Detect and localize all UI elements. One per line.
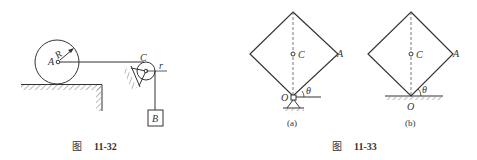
label-c-a: C: [298, 49, 305, 60]
label-a-b: A: [452, 48, 460, 59]
label-a-a: A: [336, 48, 344, 59]
caption-prefix-11-33: 图: [332, 141, 342, 152]
label-c: C: [140, 52, 147, 63]
label-r-small: r: [159, 60, 163, 71]
figure-11-33b: C A θ O (b): [368, 12, 460, 128]
label-theta-a: θ: [306, 85, 311, 96]
figure-11-32: R A C r B 图 11-32: [21, 40, 167, 152]
figure-11-33a: C A θ O (a): [250, 12, 344, 128]
ground-ledge: [21, 85, 102, 112]
center-c-b: [409, 52, 413, 56]
center-c-a: [291, 52, 295, 56]
subfigure-tag-a: (a): [287, 118, 297, 128]
caption-number-11-32: 11-32: [94, 141, 117, 152]
diagram-canvas: R A C r B 图 11-32 C A: [0, 0, 477, 160]
label-theta-b: θ: [422, 84, 427, 95]
label-b: B: [152, 113, 158, 124]
caption-prefix-11-32: 图: [72, 141, 82, 152]
label-a: A: [47, 56, 55, 67]
subfigure-tag-b: (b): [405, 118, 416, 128]
label-o-b: O: [407, 101, 414, 112]
label-o-a: O: [281, 92, 288, 103]
label-c-b: C: [416, 49, 423, 60]
caption-number-11-33: 11-33: [354, 141, 377, 152]
